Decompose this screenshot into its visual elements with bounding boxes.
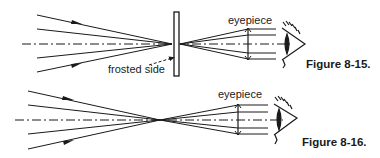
frosted-side-label: frosted side [108, 63, 165, 75]
eye-icon [274, 96, 297, 144]
figure-caption: Figure 8-15. [306, 58, 371, 70]
eye-icon [282, 21, 305, 68]
eyepiece-label: eyepiece [218, 88, 262, 100]
frosted-plate [174, 12, 179, 76]
optics-diagram: eyepiece frosted side Figure 8-15. [0, 0, 380, 158]
eyepiece-label: eyepiece [228, 14, 272, 26]
figure-caption: Figure 8-16. [302, 136, 367, 148]
